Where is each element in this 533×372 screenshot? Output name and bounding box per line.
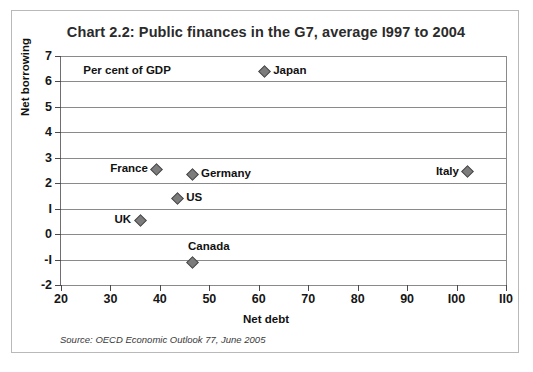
y-tick-label: 6 — [45, 74, 52, 88]
diamond-marker-icon — [258, 65, 271, 78]
x-tick-label: 70 — [301, 292, 315, 306]
x-tick-label: I00 — [448, 292, 465, 306]
diamond-marker-icon — [186, 256, 199, 269]
data-point-label: Japan — [273, 64, 306, 76]
x-tick-mark — [110, 285, 111, 291]
data-point-label: US — [186, 191, 202, 203]
gridline — [61, 81, 506, 82]
gridline — [61, 158, 506, 159]
y-tick-label: 5 — [45, 100, 52, 114]
x-tick-label: 90 — [400, 292, 414, 306]
chart-figure: Chart 2.2: Public finances in the G7, av… — [11, 10, 519, 353]
y-tick-mark — [55, 234, 61, 235]
data-point-label: Canada — [188, 240, 230, 252]
data-point-label: Italy — [436, 165, 459, 177]
y-tick-label: I — [49, 202, 52, 216]
x-tick-mark — [160, 285, 161, 291]
x-tick-mark — [259, 285, 260, 291]
x-tick-mark — [358, 285, 359, 291]
data-point-label: UK — [114, 213, 131, 225]
x-tick-label: II0 — [499, 292, 513, 306]
y-tick-mark — [55, 107, 61, 108]
gridline — [61, 234, 506, 235]
x-tick-mark — [209, 285, 210, 291]
y-tick-label: 4 — [45, 125, 52, 139]
y-tick-mark — [55, 260, 61, 261]
x-tick-label: 40 — [153, 292, 167, 306]
x-tick-label: 50 — [202, 292, 216, 306]
diamond-marker-icon — [186, 168, 199, 181]
x-axis-label: Net debt — [12, 313, 520, 325]
y-tick-label: 3 — [45, 151, 52, 165]
diamond-marker-icon — [134, 214, 147, 227]
source-note: Source: OECD Economic Outlook 77, June 2… — [60, 334, 265, 345]
x-tick-label: 80 — [351, 292, 365, 306]
x-tick-mark — [407, 285, 408, 291]
diamond-marker-icon — [151, 163, 164, 176]
gridline — [61, 107, 506, 108]
y-tick-mark — [55, 81, 61, 82]
y-tick-mark — [55, 158, 61, 159]
units-note: Per cent of GDP — [83, 64, 171, 76]
x-tick-mark — [506, 285, 507, 291]
x-tick-label: 60 — [252, 292, 266, 306]
x-tick-mark — [457, 285, 458, 291]
plot-right-edge — [506, 56, 507, 285]
gridline — [61, 260, 506, 261]
gridline — [61, 56, 506, 57]
y-tick-label: 2 — [45, 176, 52, 190]
y-tick-mark — [55, 132, 61, 133]
y-tick-mark — [55, 183, 61, 184]
y-axis-label: Net borrowing — [19, 38, 31, 116]
y-tick-label: 7 — [45, 49, 52, 63]
data-point-label: France — [110, 162, 148, 174]
y-tick-label: 0 — [45, 227, 52, 241]
x-tick-label: 30 — [103, 292, 117, 306]
gridline — [61, 209, 506, 210]
diamond-marker-icon — [462, 165, 475, 178]
x-tick-mark — [308, 285, 309, 291]
chart-title: Chart 2.2: Public finances in the G7, av… — [12, 24, 520, 40]
y-tick-label: -I — [44, 253, 52, 267]
y-tick-mark — [55, 56, 61, 57]
data-point-label: Germany — [201, 167, 251, 179]
gridline — [61, 183, 506, 184]
plot-area: 765432I0-I-2 2030405060708090I00II0 Japa… — [60, 56, 506, 286]
y-tick-mark — [55, 209, 61, 210]
x-tick-label: 20 — [54, 292, 68, 306]
gridline — [61, 285, 506, 286]
x-tick-mark — [61, 285, 62, 291]
diamond-marker-icon — [171, 192, 184, 205]
y-tick-label: -2 — [41, 278, 52, 292]
gridline — [61, 132, 506, 133]
